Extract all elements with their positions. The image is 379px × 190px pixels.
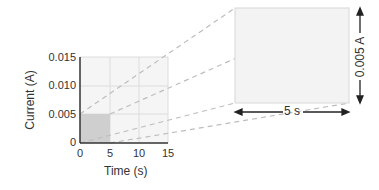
height-dimension-label: 0.005 A <box>353 27 367 87</box>
y-tick-0: 0 <box>70 136 76 148</box>
y-tick-0.005: 0.005 <box>48 108 76 120</box>
width-dimension-label: 5 s <box>284 104 300 118</box>
x-tick-0: 0 <box>77 147 83 159</box>
x-tick-10: 10 <box>133 147 145 159</box>
zoom-box <box>235 8 349 103</box>
highlight-region <box>80 114 110 143</box>
x-tick-5: 5 <box>107 147 113 159</box>
y-axis-label: Current (A) <box>23 60 37 140</box>
x-tick-15: 15 <box>162 147 174 159</box>
y-tick-0.015: 0.015 <box>48 51 76 63</box>
diagram-canvas <box>0 0 379 190</box>
x-axis-label: Time (s) <box>104 164 148 178</box>
y-tick-0.010: 0.010 <box>48 79 76 91</box>
